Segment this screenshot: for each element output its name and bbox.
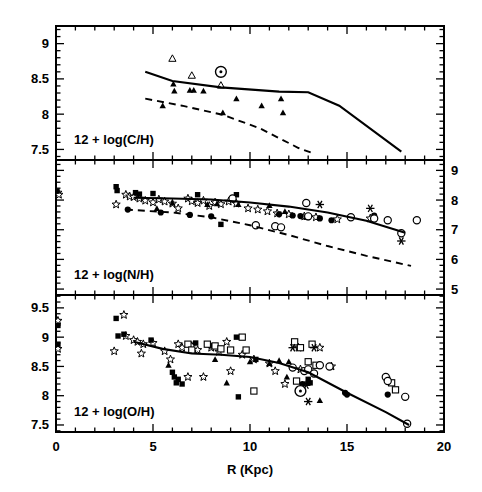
ytick-label-nitrogen: 5 bbox=[451, 282, 458, 297]
series-model-solid bbox=[145, 72, 401, 152]
x-axis-title: R (Kpc) bbox=[227, 462, 273, 477]
series-filled-square-data bbox=[55, 316, 390, 400]
ytick-label-nitrogen: 9 bbox=[451, 163, 458, 178]
series-asterisk-data bbox=[316, 201, 406, 245]
series-open-circle-data bbox=[229, 195, 421, 237]
ytick-label-oxygen: 7.5 bbox=[31, 417, 49, 432]
panel-label-oxygen: 12 + log(O/H) bbox=[74, 404, 155, 419]
series-circled-dot-data bbox=[295, 386, 306, 397]
ytick-label-oxygen: 9 bbox=[42, 330, 49, 345]
ytick-label-carbon: 8.5 bbox=[31, 71, 49, 86]
data-layer-nitrogen bbox=[54, 184, 421, 266]
ytick-label-oxygen: 8 bbox=[42, 388, 49, 403]
series-filled-circle-data bbox=[299, 380, 391, 398]
ytick-label-oxygen: 8.5 bbox=[31, 359, 49, 374]
xtick-label: 15 bbox=[340, 439, 354, 454]
ytick-label-nitrogen: 8 bbox=[451, 193, 458, 208]
xtick-label: 0 bbox=[52, 439, 59, 454]
figure-root: 98.587.512 + log(C/H)9876512 + log(N/H)9… bbox=[0, 0, 482, 492]
ytick-label-nitrogen: 7 bbox=[451, 222, 458, 237]
ytick-label-nitrogen: 6 bbox=[451, 252, 458, 267]
multi-panel-abundance-plot: 98.587.512 + log(C/H)9876512 + log(N/H)9… bbox=[0, 0, 482, 492]
xtick-label: 10 bbox=[243, 439, 257, 454]
series-model-dashed bbox=[145, 99, 312, 153]
ytick-label-carbon: 8 bbox=[42, 107, 49, 122]
ytick-label-oxygen: 9.5 bbox=[31, 300, 49, 315]
xtick-label: 5 bbox=[149, 439, 156, 454]
ytick-label-carbon: 9 bbox=[42, 36, 49, 51]
ytick-label-carbon: 7.5 bbox=[31, 142, 49, 157]
xtick-label: 20 bbox=[437, 439, 451, 454]
data-layer-carbon bbox=[145, 55, 401, 153]
series-sun-symbol bbox=[216, 66, 227, 77]
panel-label-nitrogen: 12 + log(N/H) bbox=[74, 267, 154, 282]
panel-label-carbon: 12 + log(C/H) bbox=[74, 132, 154, 147]
